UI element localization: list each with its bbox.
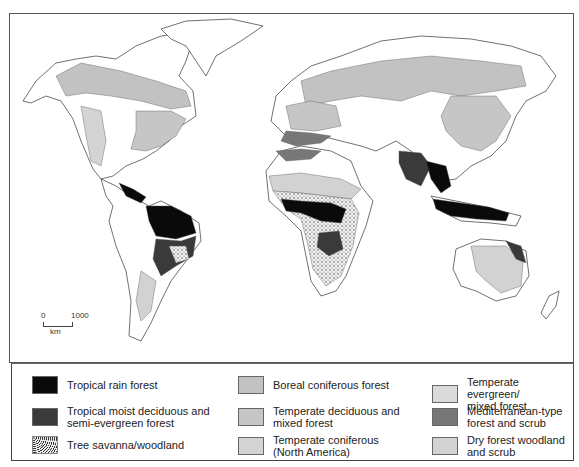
map-svg — [10, 14, 574, 363]
legend-item-dry-forest: Dry forest woodland and scrub — [432, 434, 565, 458]
world-forest-map: 0 1000 km — [9, 13, 574, 363]
temperate-europe — [286, 101, 341, 131]
legend-swatch — [32, 408, 58, 426]
legend-item-mediterranean: Mediterranean-type forest and scrub — [432, 405, 562, 429]
scale-end: 1000 — [71, 311, 89, 320]
scale-unit: km — [50, 327, 61, 336]
legend-swatch — [238, 376, 264, 394]
legend-item-tropical-moist-deciduous: Tropical moist deciduous and semi-evergr… — [32, 405, 210, 429]
legend-swatch — [238, 408, 264, 426]
legend-swatch — [238, 437, 264, 455]
legend-item-tropical-rain-forest: Tropical rain forest — [32, 376, 158, 394]
legend-swatch-stipple — [32, 436, 58, 454]
legend-swatch — [432, 408, 458, 426]
legend-item-tree-savanna: Tree savanna/woodland — [32, 436, 184, 454]
legend-item-boreal-coniferous: Boreal coniferous forest — [238, 376, 389, 394]
temperate-deciduous-na — [131, 111, 186, 151]
scale-start: 0 — [41, 311, 45, 320]
tropical-rain-indonesia — [433, 199, 509, 221]
new-zealand — [541, 291, 559, 319]
legend-swatch — [432, 385, 458, 403]
legend-item-temperate-coniferous: Temperate coniferous (North America) — [238, 434, 379, 458]
legend-swatch — [432, 437, 458, 455]
map-legend: Tropical rain forest Tropical moist deci… — [11, 363, 574, 461]
legend-item-temperate-deciduous: Temperate deciduous and mixed forest — [238, 405, 400, 429]
legend-swatch — [32, 376, 58, 394]
